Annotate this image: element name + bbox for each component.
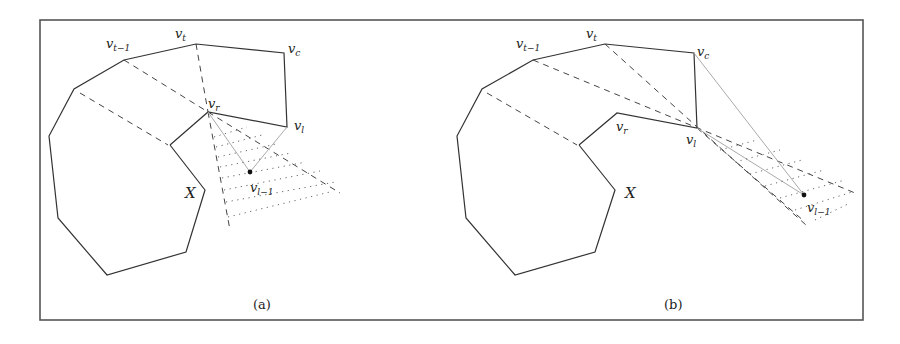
label-vl-a: vl (294, 118, 304, 135)
label-vc-a: vc (288, 41, 300, 58)
gray-vl-vl1-a (250, 127, 287, 172)
caption-a: (a) (253, 297, 271, 312)
dotted-hatching-b (720, 140, 852, 220)
label-vc-b: vc (697, 44, 709, 61)
label-vr-b: vr (616, 119, 628, 136)
panel-b: vt vt−1 vc vr vl vl−1 X (b) (457, 26, 855, 312)
polygon-boundary-a (49, 44, 287, 275)
gray-vr-vl1-a (208, 112, 250, 172)
point-vl1-a (248, 170, 253, 175)
label-vl1-b: vl−1 (807, 200, 831, 217)
label-vr-a: vr (208, 96, 220, 113)
dashed-vt1-vr-a (124, 60, 208, 112)
dashed-chord-a (80, 93, 168, 145)
dashed-fan-left-a (208, 112, 230, 230)
gray-vl-vl1-b (697, 128, 804, 195)
dotted-hatching-a (214, 127, 335, 217)
panel-a: vt vt−1 vc vr vl vl−1 X (a) (49, 26, 340, 312)
figure-frame (40, 20, 863, 320)
label-vt1-b: vt−1 (516, 36, 540, 53)
dashed-vt1-b (533, 60, 855, 193)
label-vt1-a: vt−1 (106, 36, 130, 53)
point-vl1-b (802, 193, 807, 198)
dashed-vt-vr-a (196, 44, 208, 112)
region-label-x-a: X (184, 184, 197, 202)
label-vt-a: vt (175, 26, 186, 43)
figure-canvas: vt vt−1 vc vr vl vl−1 X (a) vt vt−1 (0, 0, 900, 344)
label-vl1-a: vl−1 (250, 180, 274, 197)
label-vl-b: vl (686, 132, 696, 149)
dashed-chord-b (487, 93, 577, 145)
label-vt-b: vt (586, 26, 597, 43)
caption-b: (b) (664, 297, 682, 312)
region-label-x-b: X (624, 184, 637, 202)
